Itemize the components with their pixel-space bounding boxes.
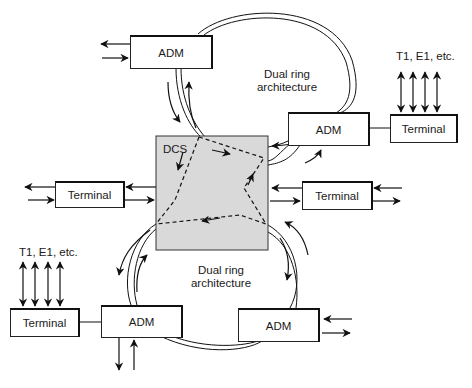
terminal-bottom-left: Terminal	[10, 308, 80, 337]
adm-top-left: ADM	[130, 35, 213, 69]
terminal-label: Terminal	[402, 123, 445, 135]
adm-label: ADM	[158, 47, 184, 59]
ring-label-line1: Dual ring	[252, 68, 322, 81]
adm-bottom-right: ADM	[238, 308, 320, 342]
terminal-label: Terminal	[68, 189, 111, 201]
adm-label: ADM	[129, 316, 155, 328]
adm-label: ADM	[316, 124, 342, 136]
dcs-label: DCS	[163, 143, 187, 156]
bottom-ring-label: Dual ring architecture	[186, 264, 256, 290]
ring-label-line2: architecture	[252, 81, 322, 94]
terminal-top-right: Terminal	[390, 114, 458, 143]
adm-top-right: ADM	[288, 112, 370, 146]
terminal-right: Terminal	[302, 181, 373, 210]
terminal-left: Terminal	[55, 181, 125, 208]
tributary-label-top-right: T1, E1, etc.	[396, 50, 455, 63]
ring-label-line1: Dual ring	[186, 264, 256, 277]
top-ring-label: Dual ring architecture	[252, 68, 322, 94]
adm-bottom-left: ADM	[101, 305, 183, 338]
terminal-label: Terminal	[23, 317, 66, 329]
terminal-label: Terminal	[315, 190, 358, 202]
adm-label: ADM	[266, 320, 292, 332]
ring-label-line2: architecture	[186, 277, 256, 290]
tributary-label-bottom-left: T1, E1, etc.	[19, 246, 78, 259]
